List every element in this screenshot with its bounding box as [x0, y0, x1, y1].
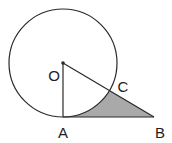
label-c: C [118, 79, 129, 94]
shaded-region [63, 91, 154, 117]
label-b: B [155, 125, 165, 140]
diagram-svg [0, 0, 172, 143]
label-o: O [48, 68, 60, 83]
center-point-o [61, 61, 65, 65]
label-a: A [58, 125, 68, 140]
geometry-diagram: O A B C [0, 0, 172, 143]
